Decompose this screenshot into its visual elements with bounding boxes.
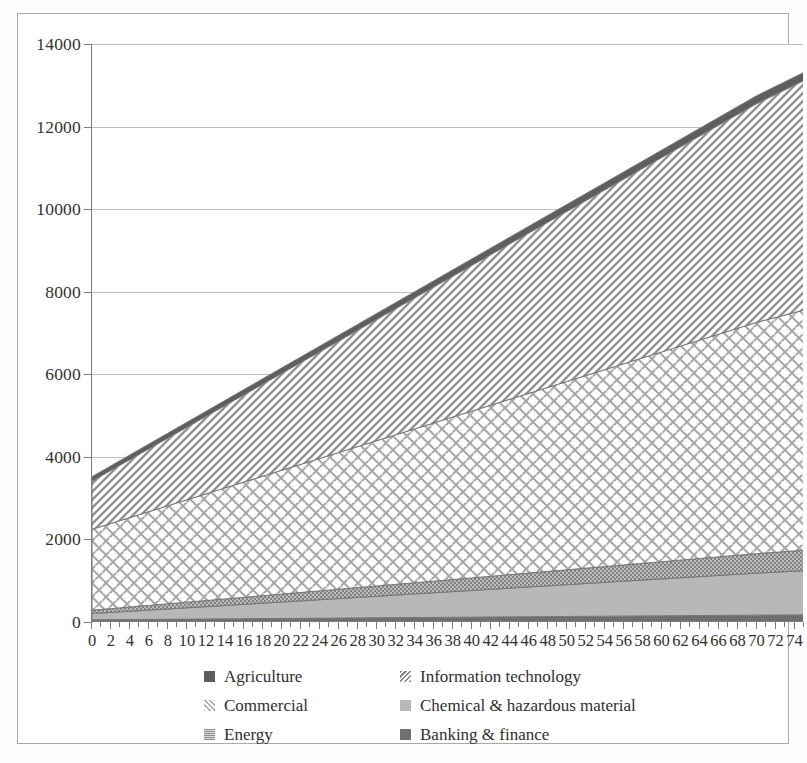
x-tick-mark-minor [670, 622, 671, 627]
x-tick-mark [186, 622, 187, 629]
x-tick-mark-minor [556, 622, 557, 627]
legend-label: Banking & finance [420, 726, 549, 743]
x-tick-mark-minor [613, 622, 614, 627]
x-tick-mark-minor [195, 622, 196, 627]
y-tick-mark [84, 622, 91, 623]
x-tick-mark [756, 622, 757, 629]
x-tick-mark [661, 622, 662, 629]
x-tick-label: 8 [164, 631, 172, 651]
legend-item[interactable]: Agriculture [204, 668, 400, 685]
x-tick-mark [148, 622, 149, 629]
x-tick-label: 14 [217, 631, 234, 651]
x-tick-label: 44 [501, 631, 518, 651]
y-tick-label: 10000 [36, 199, 81, 220]
x-tick-mark-minor [632, 622, 633, 627]
x-tick-mark-minor [651, 622, 652, 627]
x-tick-mark-minor [461, 622, 462, 627]
legend-item[interactable]: Energy [204, 726, 400, 743]
x-tick-label: 42 [482, 631, 499, 651]
x-tick-label: 46 [520, 631, 537, 651]
x-tick-mark [395, 622, 396, 629]
y-axis: 02000400060008000100001200014000 [18, 14, 91, 652]
x-tick-mark-minor [271, 622, 272, 627]
x-tick-mark-minor [499, 622, 500, 627]
legend-swatch-icon [400, 671, 411, 682]
x-tick-mark [129, 622, 130, 629]
x-tick-mark-minor [784, 622, 785, 627]
y-tick-label: 2000 [45, 529, 81, 550]
x-tick-mark [414, 622, 415, 629]
x-tick-mark [262, 622, 263, 629]
legend-label: Information technology [420, 668, 581, 685]
x-tick-mark-minor [423, 622, 424, 627]
legend-item[interactable]: Chemical & hazardous material [400, 697, 634, 714]
x-tick-mark-minor [385, 622, 386, 627]
x-tick-mark [547, 622, 548, 629]
x-tick-label: 32 [388, 631, 405, 651]
x-tick-mark-minor [689, 622, 690, 627]
x-tick-mark-minor [233, 622, 234, 627]
x-tick-label: 48 [539, 631, 556, 651]
y-tick-label: 4000 [45, 446, 81, 467]
legend-label: Chemical & hazardous material [420, 697, 636, 714]
x-tick-mark [376, 622, 377, 629]
x-tick-mark-minor [575, 622, 576, 627]
x-tick-mark-minor [803, 622, 804, 627]
x-tick-label: 0 [88, 631, 96, 651]
legend-item[interactable]: Information technology [400, 668, 634, 685]
x-tick-mark-minor [708, 622, 709, 627]
x-tick-mark-minor [100, 622, 101, 627]
x-tick-mark [680, 622, 681, 629]
x-tick-mark [205, 622, 206, 629]
x-tick-mark [357, 622, 358, 629]
x-tick-mark [224, 622, 225, 629]
x-tick-mark-minor [252, 622, 253, 627]
x-tick-mark [794, 622, 795, 629]
x-tick-mark-minor [214, 622, 215, 627]
x-tick-mark-minor [480, 622, 481, 627]
x-tick-mark [528, 622, 529, 629]
x-tick-label: 40 [463, 631, 480, 651]
x-tick-mark [699, 622, 700, 629]
x-tick-mark-minor [727, 622, 728, 627]
x-tick-mark [718, 622, 719, 629]
x-tick-mark-minor [157, 622, 158, 627]
x-tick-label: 62 [672, 631, 689, 651]
x-tick-mark [243, 622, 244, 629]
x-tick-mark-minor [347, 622, 348, 627]
y-tick-mark [84, 457, 91, 458]
x-tick-mark [167, 622, 168, 629]
x-tick-mark-minor [746, 622, 747, 627]
stacked-area-plot [92, 44, 803, 622]
x-tick-label: 74 [786, 631, 803, 651]
x-tick-mark [490, 622, 491, 629]
legend-label: Commercial [224, 697, 308, 714]
x-tick-mark [642, 622, 643, 629]
x-tick-mark-minor [537, 622, 538, 627]
legend-label: Agriculture [224, 668, 302, 685]
legend-item[interactable]: Banking & finance [400, 726, 634, 743]
x-tick-label: 72 [767, 631, 784, 651]
x-tick-label: 30 [369, 631, 386, 651]
x-tick-label: 26 [331, 631, 348, 651]
x-tick-mark-minor [176, 622, 177, 627]
y-tick-label: 8000 [45, 281, 81, 302]
x-tick-label: 18 [255, 631, 272, 651]
x-tick-label: 12 [198, 631, 215, 651]
legend-item[interactable]: Commercial [204, 697, 400, 714]
x-tick-label: 70 [748, 631, 765, 651]
x-tick-mark [509, 622, 510, 629]
x-tick-mark [585, 622, 586, 629]
y-tick-mark [84, 374, 91, 375]
x-tick-mark [737, 622, 738, 629]
x-tick-mark-minor [328, 622, 329, 627]
x-tick-label: 6 [145, 631, 153, 651]
x-tick-label: 56 [615, 631, 632, 651]
x-tick-mark [338, 622, 339, 629]
x-tick-mark [604, 622, 605, 629]
x-tick-mark-minor [138, 622, 139, 627]
x-tick-mark-minor [290, 622, 291, 627]
y-tick-mark [84, 44, 91, 45]
x-tick-mark [471, 622, 472, 629]
y-tick-mark [84, 539, 91, 540]
